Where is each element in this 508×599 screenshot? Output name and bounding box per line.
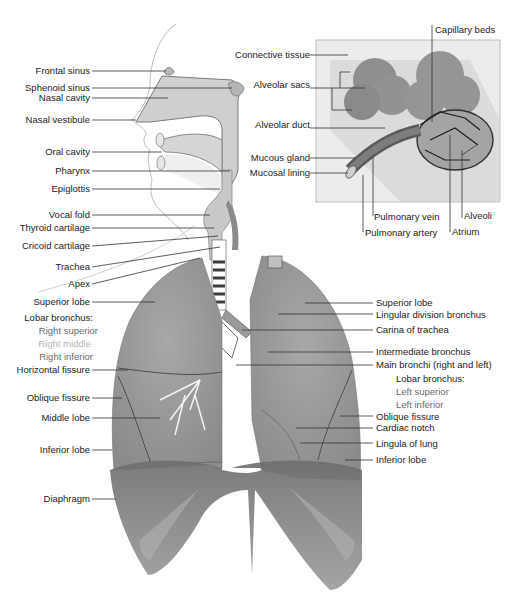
- label-oblique-fissure-right: Oblique fissure: [27, 392, 90, 403]
- label-lingular-division-bronchus: Lingular division bronchus: [376, 309, 486, 320]
- label-cricoid-cartilage: Cricoid cartilage: [22, 240, 90, 251]
- label-superior-lobe-right: Superior lobe: [33, 296, 90, 307]
- right-lung: [112, 258, 222, 470]
- respiratory-diagram: Frontal sinus Sphenoid sinus Nasal cavit…: [0, 0, 508, 599]
- label-pulmonary-artery: Pulmonary artery: [365, 227, 437, 238]
- label-pulmonary-vein: Pulmonary vein: [374, 211, 439, 222]
- label-capillary-beds: Capillary beds: [435, 24, 495, 35]
- label-connective-tissue: Connective tissue: [235, 49, 310, 60]
- label-left-inferior: Left inferior: [396, 399, 444, 410]
- inset-marker: [268, 256, 282, 268]
- label-right-inferior: Right inferior: [39, 351, 93, 362]
- label-vocal-fold: Vocal fold: [49, 209, 90, 220]
- label-nasal-vestibule: Nasal vestibule: [26, 114, 90, 125]
- label-left-superior: Left superior: [396, 386, 449, 397]
- label-horizontal-fissure: Horizontal fissure: [17, 364, 90, 375]
- label-mucous-gland: Mucous gland: [251, 152, 310, 163]
- label-nasal-cavity: Nasal cavity: [39, 92, 90, 103]
- label-mucosal-lining: Mucosal lining: [250, 167, 310, 178]
- label-carina-of-trachea: Carina of trachea: [376, 324, 449, 335]
- label-alveoli: Alveoli: [464, 210, 492, 221]
- label-thyroid-cartilage: Thyroid cartilage: [20, 222, 90, 233]
- label-alveolar-sacs: Alveolar sacs: [254, 79, 311, 90]
- label-atrium: Atrium: [452, 226, 479, 237]
- label-middle-lobe: Middle lobe: [41, 412, 90, 423]
- label-lobar-bronchus-right: Lobar bronchus:: [24, 312, 93, 323]
- label-inferior-lobe-right: Inferior lobe: [40, 444, 90, 455]
- label-intermediate-bronchus: Intermediate bronchus: [376, 346, 471, 357]
- label-lobar-bronchus-left: Lobar bronchus:: [396, 373, 465, 384]
- label-lingula-of-lung: Lingula of lung: [376, 438, 438, 449]
- left-lung: [250, 256, 361, 480]
- label-inferior-lobe-left: Inferior lobe: [376, 454, 426, 465]
- label-trachea: Trachea: [56, 261, 91, 272]
- label-oral-cavity: Oral cavity: [45, 146, 90, 157]
- label-frontal-sinus: Frontal sinus: [36, 65, 90, 76]
- alveoli-inset: [316, 40, 500, 202]
- label-alveolar-duct: Alveolar duct: [255, 119, 310, 130]
- label-cardiac-notch: Cardiac notch: [376, 422, 435, 433]
- label-apex: Apex: [68, 278, 90, 289]
- label-diaphragm: Diaphragm: [44, 493, 90, 504]
- label-main-bronchi: Main bronchi (right and left): [376, 359, 492, 370]
- label-superior-lobe-left: Superior lobe: [376, 297, 433, 308]
- label-epiglottis: Epiglottis: [51, 183, 90, 194]
- label-right-middle: Right middle: [38, 338, 91, 349]
- label-right-superior: Right superior: [39, 325, 98, 336]
- label-oblique-fissure-left: Oblique fissure: [376, 411, 439, 422]
- label-pharynx: Pharynx: [55, 165, 90, 176]
- diaphragm-shape: [110, 461, 362, 590]
